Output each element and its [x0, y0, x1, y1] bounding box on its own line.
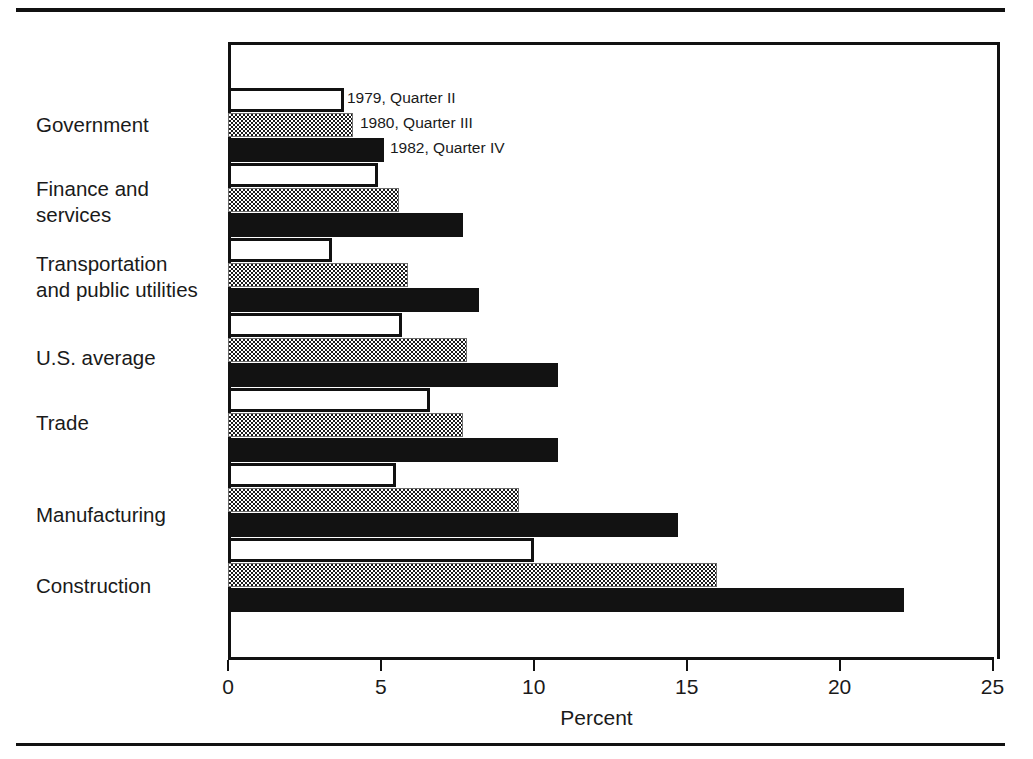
- legend-label: 1982, Quarter IV: [390, 139, 505, 157]
- bar: [228, 513, 678, 537]
- x-axis-title-text: Percent: [560, 706, 632, 730]
- x-axis-tick: [992, 660, 994, 671]
- x-axis-tick: [839, 660, 841, 671]
- x-axis-title: Percent: [0, 706, 1033, 730]
- bar: [228, 263, 408, 287]
- category-label-line: Trade: [36, 410, 226, 436]
- category-label-line: and public utilities: [36, 277, 226, 303]
- category-label-line: services: [36, 202, 226, 228]
- x-axis-tick-label: 10: [522, 675, 545, 699]
- bar: [228, 288, 479, 312]
- bar: [228, 413, 463, 437]
- bar: [228, 438, 558, 462]
- bar: [228, 538, 534, 562]
- x-axis-tick: [686, 660, 688, 671]
- category-label-line: Construction: [36, 573, 226, 599]
- x-axis-tick: [227, 660, 229, 671]
- bar: [228, 313, 402, 337]
- category-label-line: Transportation: [36, 251, 226, 277]
- bar: [228, 338, 467, 362]
- category-label: Trade: [36, 410, 226, 436]
- bar: [228, 463, 396, 487]
- category-label-line: Finance and: [36, 176, 226, 202]
- legend-label: 1979, Quarter II: [347, 89, 456, 107]
- bar: [228, 188, 399, 212]
- bar: [228, 238, 332, 262]
- bar: [228, 213, 463, 237]
- x-axis-tick-label: 25: [981, 675, 1004, 699]
- top-rule: [16, 8, 1005, 12]
- bar: [228, 88, 344, 112]
- category-label-line: U.S. average: [36, 345, 226, 371]
- category-label-line: Manufacturing: [36, 502, 226, 528]
- x-axis-tick: [380, 660, 382, 671]
- bar: [228, 363, 558, 387]
- bar: [228, 388, 430, 412]
- bottom-rule: [16, 743, 1005, 746]
- x-axis-tick-label: 15: [675, 675, 698, 699]
- bar-chart-plot-area: [228, 42, 1000, 659]
- x-axis-line: [228, 657, 994, 660]
- legend-label: 1980, Quarter III: [360, 114, 473, 132]
- bar: [228, 163, 378, 187]
- category-label-line: Government: [36, 112, 226, 138]
- category-label: U.S. average: [36, 345, 226, 371]
- category-label: Government: [36, 112, 226, 138]
- category-label: Transportationand public utilities: [36, 251, 226, 303]
- bar: [228, 488, 519, 512]
- bar: [228, 563, 717, 587]
- bar: [228, 588, 904, 612]
- x-axis-tick: [533, 660, 535, 671]
- category-label: Finance andservices: [36, 176, 226, 228]
- category-label: Manufacturing: [36, 502, 226, 528]
- bar: [228, 113, 353, 137]
- x-axis-tick-label: 0: [222, 675, 234, 699]
- category-label: Construction: [36, 573, 226, 599]
- x-axis-tick-label: 5: [375, 675, 387, 699]
- x-axis-tick-label: 20: [828, 675, 851, 699]
- bar: [228, 138, 384, 162]
